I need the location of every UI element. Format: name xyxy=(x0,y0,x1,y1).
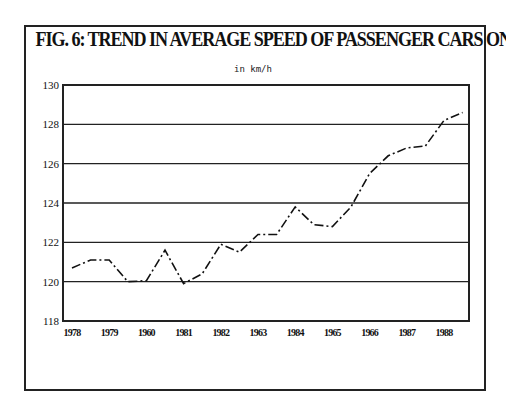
y-tick-label: 120 xyxy=(43,276,60,288)
line-chart: 118120122124126128130 197819791960198119… xyxy=(0,0,506,412)
x-tick-label: 1981 xyxy=(175,327,193,338)
y-axis-ticks: 118120122124126128130 xyxy=(43,79,60,327)
x-tick-label: 1982 xyxy=(212,327,230,338)
x-tick-label: 1965 xyxy=(324,327,342,338)
y-tick-label: 118 xyxy=(43,315,60,327)
gridlines xyxy=(63,124,469,281)
x-tick-label: 1966 xyxy=(361,327,379,338)
x-tick-label: 1979 xyxy=(101,327,119,338)
x-tick-label: 1988 xyxy=(436,327,454,338)
y-tick-label: 126 xyxy=(43,158,60,170)
x-tick-label: 1960 xyxy=(138,327,156,338)
y-tick-label: 128 xyxy=(43,118,60,130)
x-tick-label: 1987 xyxy=(398,327,416,338)
x-tick-label: 1963 xyxy=(250,327,268,338)
x-tick-label: 1984 xyxy=(287,327,305,338)
y-tick-label: 124 xyxy=(43,197,60,209)
y-tick-label: 130 xyxy=(43,79,60,91)
y-tick-label: 122 xyxy=(43,236,60,248)
x-tick-label: 1978 xyxy=(64,327,82,338)
speed-series-line xyxy=(72,113,463,284)
x-axis-ticks: 1978197919601981198219631984196519661987… xyxy=(64,327,454,338)
